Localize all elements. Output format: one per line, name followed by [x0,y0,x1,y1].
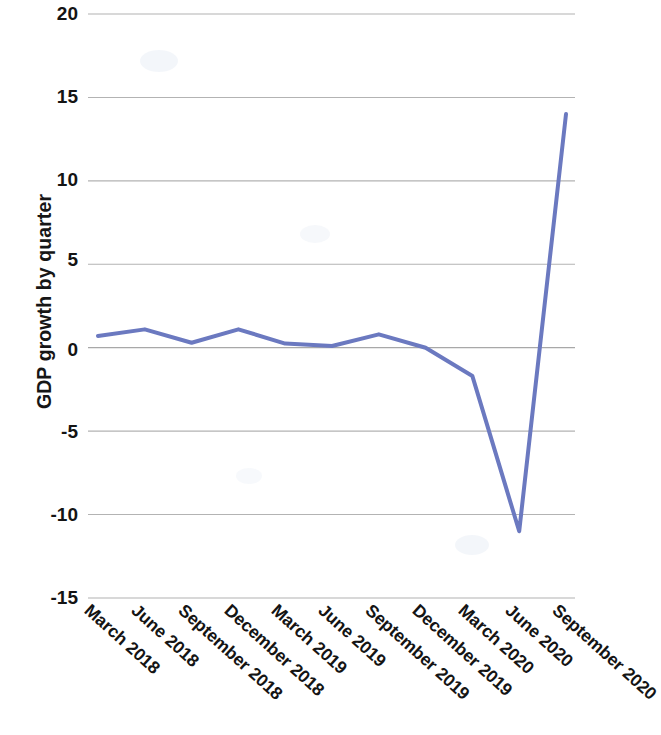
y-tick-label: -10 [14,505,78,524]
data-series-line [98,114,566,531]
data-line-layer [88,0,575,610]
y-tick-label: 20 [14,4,78,23]
y-axis-tick-labels: 20 15 10 5 0 -5 -10 -15 [0,0,78,620]
x-axis-tick-labels: March 2018June 2018September 2018Decembe… [88,600,583,735]
y-tick-label: -5 [14,422,78,441]
y-tick-label: -15 [14,588,78,607]
y-tick-label: 5 [14,250,78,269]
y-tick-label: 10 [14,170,78,189]
plot-area [88,0,575,610]
y-tick-label: 15 [14,87,78,106]
y-tick-label: 0 [14,340,78,359]
